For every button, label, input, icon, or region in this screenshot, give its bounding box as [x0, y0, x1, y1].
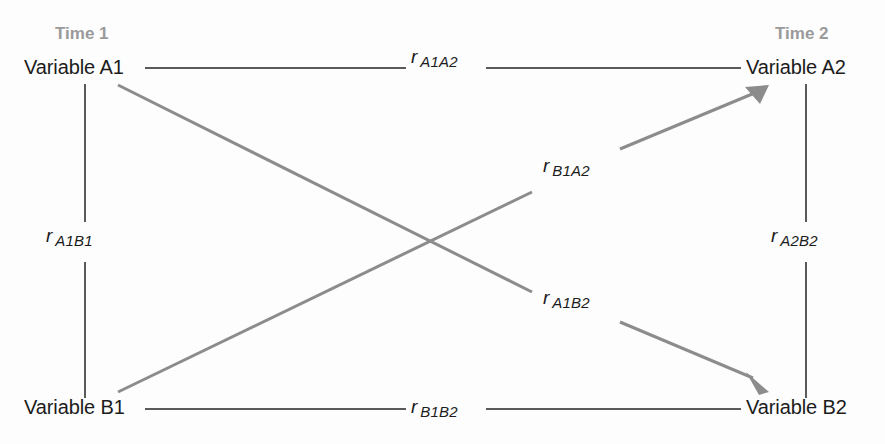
edge-label-a1b1: rA1B1	[46, 225, 90, 247]
edge-label-b1b2-symbol: r	[411, 396, 417, 417]
edge-label-b1a2-symbol: r	[543, 155, 549, 176]
edge-label-b1b2: rB1B2	[411, 396, 455, 418]
edge-b1a2-segment-upper	[620, 92, 757, 149]
node-variable-a1: Variable A1	[24, 56, 124, 79]
edge-label-a1b2: rA1B2	[543, 287, 587, 309]
node-variable-b2: Variable B2	[746, 396, 847, 419]
edge-label-a2b2-subscript: A2B2	[780, 232, 818, 249]
edge-label-a1b2-subscript: A1B2	[552, 294, 590, 311]
edge-label-b1a2-subscript: B1A2	[552, 162, 590, 179]
edge-label-a2b2-symbol: r	[771, 225, 777, 246]
edge-label-b1b2-subscript: B1B2	[420, 403, 458, 420]
edge-a1b2-segment-upper	[118, 85, 532, 292]
cross-lagged-panel-diagram: Time 1 Time 2 Variable A1 Variable A2 Va…	[0, 0, 885, 444]
arrowhead-a1b2-icon	[746, 372, 769, 395]
edge-label-a1a2-subscript: A1A2	[420, 53, 458, 70]
node-variable-a2: Variable A2	[746, 56, 846, 79]
edge-label-b1a2: rB1A2	[543, 155, 587, 177]
edge-label-a1b1-symbol: r	[46, 225, 52, 246]
time-1-header: Time 1	[55, 24, 109, 44]
edge-label-a1b1-subscript: A1B1	[55, 232, 93, 249]
edge-label-a2b2: rA2B2	[771, 225, 815, 247]
edge-label-a1a2: rA1A2	[411, 46, 455, 68]
edge-a1b2-segment-lower	[620, 322, 753, 378]
time-2-header: Time 2	[775, 24, 829, 44]
edge-label-a1b2-symbol: r	[543, 287, 549, 308]
edge-b1a2-segment-lower	[118, 192, 532, 392]
edge-label-a1a2-symbol: r	[411, 46, 417, 67]
node-variable-b1: Variable B1	[24, 396, 125, 419]
